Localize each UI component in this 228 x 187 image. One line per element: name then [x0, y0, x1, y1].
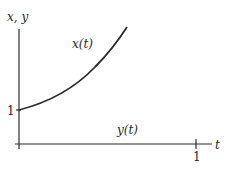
series-y-label: y(t)	[116, 123, 138, 137]
x-tick-label: 1	[193, 150, 201, 164]
chart: x, y t 1 1 x(t) y(t)	[0, 0, 228, 187]
series-x-label: x(t)	[72, 37, 93, 51]
y-tick-label: 1	[7, 104, 15, 118]
y-axis-label: x, y	[7, 10, 28, 24]
x-axis-label: t	[215, 138, 220, 152]
